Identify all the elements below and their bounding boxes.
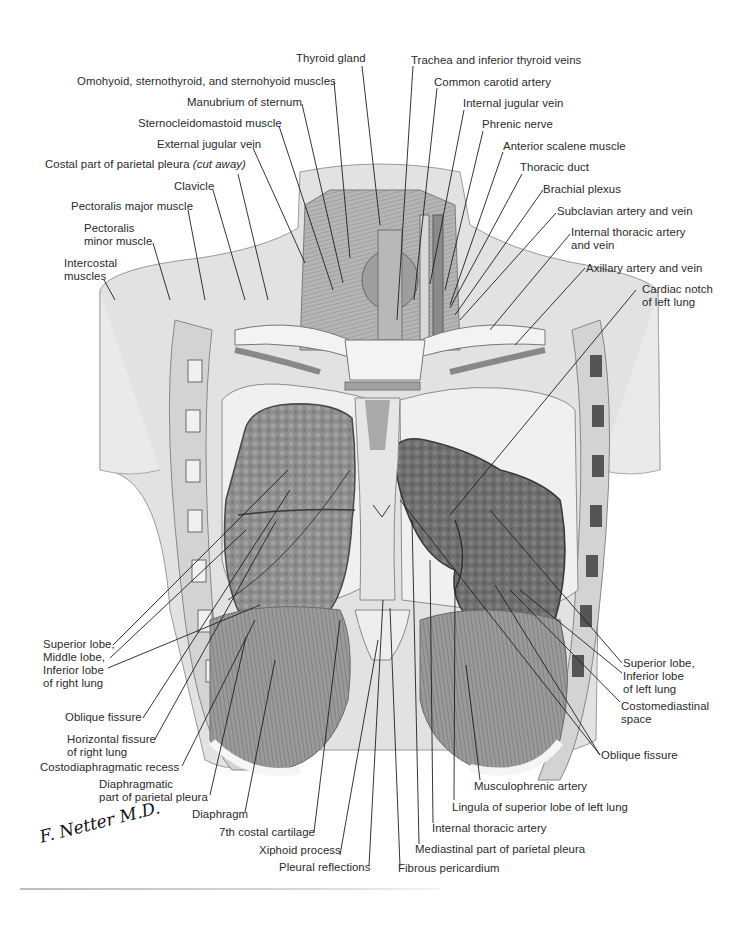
label-thyroid-gland: Thyroid gland bbox=[296, 52, 366, 65]
label-lingula: Lingula of superior lobe of left lung bbox=[452, 801, 628, 814]
label-costal-pleura-text: Costal part of parietal pleura bbox=[45, 158, 190, 170]
label-right-lung-lobes: Superior lobe, Middle lobe, Inferior lob… bbox=[43, 638, 115, 690]
label-horizontal-fissure-line2: of right lung bbox=[67, 746, 156, 759]
label-intercostal-line1: Intercostal bbox=[64, 257, 117, 270]
label-right-lobes-line2: Middle lobe, bbox=[43, 651, 115, 664]
label-internal-thoracic-artery: Internal thoracic artery bbox=[432, 822, 547, 835]
label-common-carotid: Common carotid artery bbox=[434, 76, 551, 89]
label-pectoralis-minor: Pectoralis minor muscle bbox=[84, 222, 152, 248]
label-diaphragmatic-pleura-line1: Diaphragmatic bbox=[99, 778, 208, 791]
label-costomediastinal-line1: Costomediastinal bbox=[621, 700, 709, 713]
label-clavicle: Clavicle bbox=[174, 180, 214, 193]
label-axillary: Axillary artery and vein bbox=[586, 262, 702, 275]
label-right-lobes-line4: of right lung bbox=[43, 677, 115, 690]
neck-structures bbox=[300, 190, 460, 350]
label-left-lobes-line2: Inferior lobe bbox=[623, 670, 695, 683]
label-external-jugular-vein: External jugular vein bbox=[157, 138, 261, 151]
label-cardiac-notch: Cardiac notch of left lung bbox=[642, 283, 713, 309]
label-mediastinal-pleura: Mediastinal part of parietal pleura bbox=[415, 843, 585, 856]
label-costal-pleura-note: (cut away) bbox=[193, 158, 246, 170]
label-trachea: Trachea and inferior thyroid veins bbox=[411, 54, 581, 67]
label-costomediastinal-line2: space bbox=[621, 713, 709, 726]
label-horizontal-fissure: Horizontal fissure of right lung bbox=[67, 733, 156, 759]
right-lung bbox=[225, 404, 356, 628]
label-subclavian: Subclavian artery and vein bbox=[557, 205, 693, 218]
label-oblique-fissure-right: Oblique fissure bbox=[65, 711, 142, 724]
label-brachial-plexus: Brachial plexus bbox=[543, 183, 621, 196]
label-costal-pleura: Costal part of parietal pleura (cut away… bbox=[45, 158, 246, 171]
label-intercostal-muscles: Intercostal muscles bbox=[64, 257, 117, 283]
label-thoracic-duct: Thoracic duct bbox=[520, 161, 589, 174]
label-costomediastinal-space: Costomediastinal space bbox=[621, 700, 709, 726]
label-anterior-scalene: Anterior scalene muscle bbox=[503, 140, 626, 153]
label-omohyoid-muscles: Omohyoid, sternothyroid, and sternohyoid… bbox=[77, 75, 336, 88]
label-pectoralis-minor-line2: minor muscle bbox=[84, 235, 152, 248]
label-intercostal-line2: muscles bbox=[64, 270, 117, 283]
label-musculophrenic-artery: Musculophrenic artery bbox=[474, 780, 587, 793]
label-xiphoid-process: Xiphoid process bbox=[259, 844, 341, 857]
label-cardiac-notch-line1: Cardiac notch bbox=[642, 283, 713, 296]
label-pectoralis-major: Pectoralis major muscle bbox=[71, 200, 193, 213]
label-7th-costal-cartilage: 7th costal cartilage bbox=[219, 826, 315, 839]
label-internal-thoracic-av-line1: Internal thoracic artery bbox=[571, 226, 686, 239]
label-cardiac-notch-line2: of left lung bbox=[642, 296, 713, 309]
bottom-rule bbox=[20, 888, 440, 890]
label-left-lobes-line3: of left lung bbox=[623, 683, 695, 696]
label-oblique-fissure-left: Oblique fissure bbox=[601, 749, 678, 762]
label-internal-thoracic-av-line2: and vein bbox=[571, 239, 686, 252]
label-pleural-reflections: Pleural reflections bbox=[279, 861, 371, 874]
label-pectoralis-minor-line1: Pectoralis bbox=[84, 222, 152, 235]
label-internal-jugular: Internal jugular vein bbox=[463, 97, 563, 110]
label-horizontal-fissure-line1: Horizontal fissure bbox=[67, 733, 156, 746]
label-internal-thoracic-av: Internal thoracic artery and vein bbox=[571, 226, 686, 252]
label-fibrous-pericardium: Fibrous pericardium bbox=[398, 862, 500, 875]
label-left-lobes-line1: Superior lobe, bbox=[623, 657, 695, 670]
label-right-lobes-line3: Inferior lobe bbox=[43, 664, 115, 677]
label-costodiaphragmatic-recess: Costodiaphragmatic recess bbox=[40, 761, 179, 774]
label-right-lobes-line1: Superior lobe, bbox=[43, 638, 115, 651]
label-sternocleidomastoid: Sternocleidomastoid muscle bbox=[138, 117, 282, 130]
label-left-lung-lobes: Superior lobe, Inferior lobe of left lun… bbox=[623, 657, 695, 696]
label-diaphragm: Diaphragm bbox=[192, 808, 248, 821]
label-phrenic-nerve: Phrenic nerve bbox=[482, 118, 553, 131]
mediastinum bbox=[355, 398, 400, 600]
label-manubrium: Manubrium of sternum bbox=[187, 96, 302, 109]
